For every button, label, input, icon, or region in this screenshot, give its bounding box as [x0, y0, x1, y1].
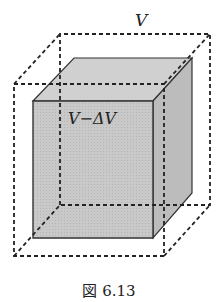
outer-volume-label: V: [135, 10, 149, 30]
inner-volume-label: V−ΔV: [68, 109, 118, 128]
outer-edge-top-left: [14, 34, 60, 84]
inner-cube: [33, 58, 192, 238]
cube-diagram: V V−ΔV 図 6.13: [0, 0, 218, 302]
figure-caption: 図 6.13: [82, 282, 135, 300]
